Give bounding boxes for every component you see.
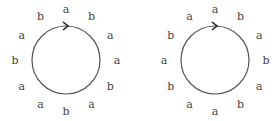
circle-label: b xyxy=(62,105,69,118)
circle-label: a xyxy=(186,10,193,23)
circle-label: a xyxy=(19,29,26,42)
circle xyxy=(32,26,100,94)
circle-diagrams: abaababaabab abababaababa xyxy=(0,0,278,121)
circle-label: a xyxy=(256,29,263,42)
circle-label: b xyxy=(37,10,44,23)
circle-label: b xyxy=(237,10,244,23)
circle-label: a xyxy=(186,98,193,111)
circle-label: a xyxy=(63,3,70,16)
circle-label: a xyxy=(88,98,95,111)
circle-label: a xyxy=(107,29,114,42)
right-circle-diagram: abababaababa xyxy=(161,3,270,118)
circle-label: a xyxy=(161,54,168,67)
circle-label: a xyxy=(114,54,121,67)
circle-label: b xyxy=(107,80,114,93)
diagram-stage: abaababaabab abababaababa xyxy=(0,0,278,121)
circle-label: a xyxy=(19,80,26,93)
circle-label: b xyxy=(88,10,95,23)
circle-label: a xyxy=(256,80,263,93)
left-circle-diagram: abaababaabab xyxy=(11,3,120,118)
circle-label: a xyxy=(37,98,44,111)
circle-label: a xyxy=(212,105,219,118)
circle xyxy=(181,26,249,94)
circle-label: b xyxy=(262,54,269,67)
circle-label: b xyxy=(167,80,174,93)
circle-label: b xyxy=(167,29,174,42)
circle-label: a xyxy=(212,3,219,16)
circle-label: b xyxy=(11,54,18,67)
circle-label: b xyxy=(237,98,244,111)
